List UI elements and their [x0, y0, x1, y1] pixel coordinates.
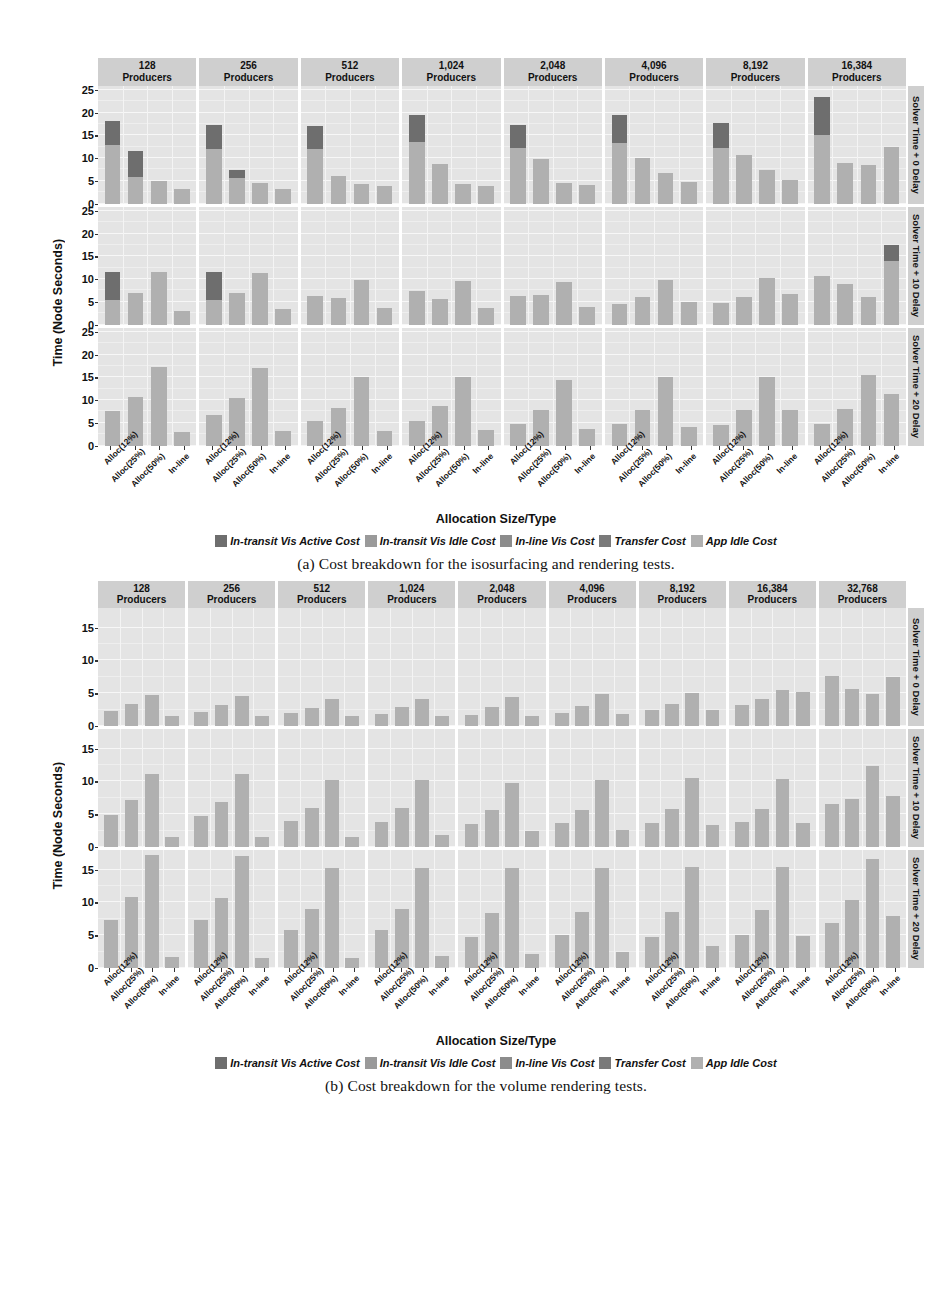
bar-segment: [755, 809, 769, 847]
bar-0: [104, 711, 118, 726]
bar-group: [808, 207, 906, 325]
x-tick-mark: [603, 968, 604, 972]
bar-3: [796, 692, 810, 726]
bar-1: [665, 809, 679, 847]
bar-segment: [556, 380, 572, 446]
bar-segment: [478, 430, 494, 445]
bar-0: [375, 714, 389, 726]
bar-2: [145, 855, 159, 968]
panel-1-1: [199, 207, 297, 325]
panel-1-7: [808, 207, 906, 325]
x-tick-cell-5: Alloc(12%)Alloc(25%)Alloc(50%)In-line: [605, 446, 703, 508]
column-header-value: 128: [133, 583, 150, 594]
y-tick-label: 25: [82, 326, 94, 338]
bar-1: [533, 295, 549, 325]
bar-2: [151, 367, 167, 445]
bar-2: [151, 272, 167, 324]
row-band-0: 051015Solver Time + 0 Delay: [68, 608, 924, 726]
column-header-unit: Producers: [207, 594, 256, 605]
bar-segment: [174, 432, 190, 446]
bar-segment: [165, 716, 179, 726]
legend-swatch: [365, 535, 377, 547]
bar-segment: [796, 692, 810, 726]
bar-group: [639, 850, 726, 968]
column-header-value: 4,096: [642, 60, 667, 71]
bar-segment: [145, 695, 159, 726]
column-header-unit: Producers: [657, 594, 706, 605]
bar-segment: [505, 697, 519, 726]
bar-2: [235, 696, 249, 726]
bar-3: [579, 429, 595, 446]
bar-segment: [735, 935, 749, 968]
lattice-a: Time (Node Seconds)128Producers256Produc…: [48, 58, 924, 547]
bar-1: [665, 704, 679, 726]
legend-label: In-transit Vis Idle Cost: [380, 535, 496, 547]
bar-2: [415, 699, 429, 726]
bar-segment: [455, 281, 471, 324]
bar-0: [555, 713, 569, 726]
legend-swatch: [215, 1057, 227, 1069]
bar-2: [556, 183, 572, 204]
column-header-unit: Producers: [629, 72, 678, 83]
bar-segment: [375, 714, 389, 726]
bar-segment: [151, 272, 167, 324]
bar-segment: [235, 696, 249, 726]
bar-segment: [681, 182, 697, 204]
bar-segment: [884, 147, 900, 204]
y-tick-label: 0: [88, 440, 94, 452]
column-header-value: 8,192: [743, 60, 768, 71]
panel-0-1: [199, 86, 297, 204]
bar-group: [98, 850, 185, 968]
bar-segment: [595, 694, 609, 726]
bar-segment: [884, 245, 900, 261]
legend-swatch: [599, 1057, 611, 1069]
bar-group: [98, 328, 196, 446]
y-tick-label: 25: [82, 84, 94, 96]
bar-2: [325, 780, 339, 847]
bar-segment: [759, 278, 775, 324]
y-tick-column-1: 0510152025: [68, 207, 98, 325]
bar-group: [504, 86, 602, 204]
bar-segment: [776, 867, 790, 968]
bar-group: [188, 850, 275, 968]
panels-row-1: [98, 729, 906, 847]
panel-0-7: [808, 86, 906, 204]
bar-segment: [505, 868, 519, 968]
bar-segment: [275, 309, 291, 324]
bar-0: [555, 935, 569, 968]
bar-1: [128, 151, 144, 203]
bar-segment: [759, 170, 775, 204]
x-tick-label: Alloc(12%): [372, 973, 387, 988]
bar-group: [819, 608, 906, 726]
panels-row-2: [98, 328, 906, 446]
y-axis-label: Time (Node Seconds): [48, 581, 68, 1070]
x-tick-cell-0: Alloc(12%)Alloc(25%)Alloc(50%)In-line: [98, 968, 185, 1030]
bar-group: [188, 729, 275, 847]
bar-segment: [886, 916, 900, 968]
bar-segment: [229, 170, 245, 178]
bar-segment: [435, 716, 449, 726]
x-tick-spacer: [68, 968, 98, 1030]
x-tick-label: Alloc(12%): [304, 451, 320, 467]
bar-group: [458, 729, 545, 847]
panel-header-row: 128Producers256Producers512Producers1,02…: [68, 581, 924, 609]
legend-swatch: [500, 1057, 512, 1069]
bar-segment: [345, 837, 359, 847]
bar-segment: [215, 802, 229, 847]
bar-0: [735, 705, 749, 726]
panel-2-2: [301, 328, 399, 446]
legend-item-2: In-line Vis Cost: [500, 1057, 594, 1069]
legend-swatch: [215, 535, 227, 547]
bar-segment: [409, 291, 425, 324]
bar-group: [549, 729, 636, 847]
column-header-8: 32,768Producers: [819, 581, 906, 609]
legend: In-transit Vis Active CostIn-transit Vis…: [68, 1057, 924, 1069]
bar-segment: [125, 800, 139, 847]
bar-3: [275, 309, 291, 324]
bar-segment: [681, 427, 697, 446]
bar-2: [556, 380, 572, 446]
bar-segment: [409, 142, 425, 203]
bar-segment: [505, 783, 519, 847]
bar-1: [395, 808, 409, 847]
y-tick-label: 15: [82, 864, 94, 876]
